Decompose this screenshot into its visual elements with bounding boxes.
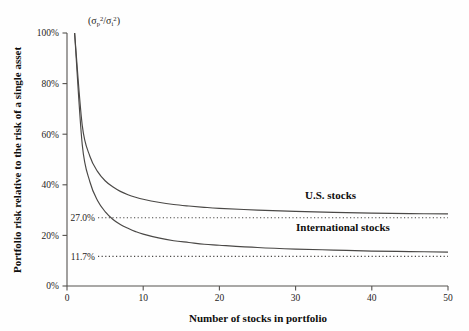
x-tick-label: 20 xyxy=(215,293,225,303)
chart-canvas: (σp2/σi2) Portfolio risk relative to the… xyxy=(0,0,469,331)
asymptote-value-label: 11.7% xyxy=(71,252,95,262)
x-tick-label: 50 xyxy=(443,293,453,303)
asymptote-labels: 27.0%11.7% xyxy=(70,213,95,262)
curve-international-stocks xyxy=(75,33,448,252)
y-axis-ticks: 0%20%40%60%80%100% xyxy=(37,28,67,291)
x-tick-label: 30 xyxy=(291,293,301,303)
diversification-chart: (σp2/σi2) Portfolio risk relative to the… xyxy=(0,0,469,331)
y-tick-label: 40% xyxy=(42,180,60,190)
y-tick-label: 80% xyxy=(42,79,60,89)
y-tick-label: 20% xyxy=(42,231,60,241)
curve-u-s-stocks xyxy=(75,33,448,214)
x-tick-label: 10 xyxy=(138,293,148,303)
y-axis-title: Portfolio risk relative to the risk of a… xyxy=(11,47,23,274)
y-tick-label: 0% xyxy=(46,281,59,291)
asymptote-value-label: 27.0% xyxy=(70,213,95,223)
series-label-international-stocks: International stocks xyxy=(296,221,391,233)
x-axis-title: Number of stocks in portfolio xyxy=(189,312,327,324)
asymptote-lines xyxy=(98,218,448,257)
y-axis-unit-label: (σp2/σi2) xyxy=(88,15,120,28)
y-tick-label: 60% xyxy=(42,130,60,140)
y-tick-label: 100% xyxy=(37,28,59,38)
series-label-us-stocks: U.S. stocks xyxy=(305,189,357,201)
x-tick-label: 0 xyxy=(65,293,70,303)
x-axis-ticks: 01020304050 xyxy=(65,286,453,303)
series-curves xyxy=(75,33,448,252)
x-tick-label: 40 xyxy=(367,293,377,303)
